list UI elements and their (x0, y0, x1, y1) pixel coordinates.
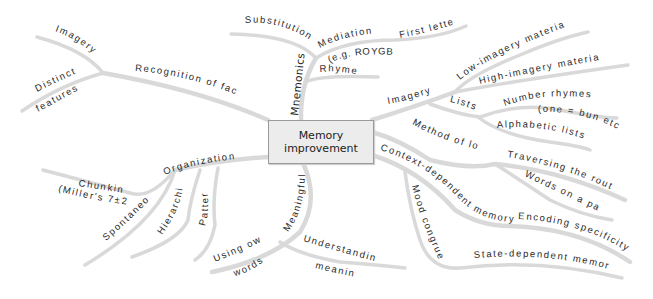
label-recognition-of-faces: Recognition of faces (0, 0, 240, 97)
center-title-line1: Memory (299, 129, 344, 142)
center-title-line2: improvement (284, 142, 358, 155)
label-encoding-specificity: Encoding specificity (518, 210, 632, 253)
label-using-own: Using own (0, 0, 263, 264)
center-node: Memory improvement (268, 120, 374, 164)
label-lists: Lists (449, 93, 479, 112)
label-alphabetic-lists: Alphabetic lists (496, 118, 587, 141)
label-context-dependent: Context-dependent memory (380, 141, 516, 224)
